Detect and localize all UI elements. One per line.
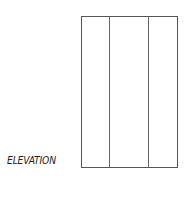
panel-divider-right xyxy=(148,17,149,167)
elevation-panel xyxy=(81,16,178,168)
elevation-label: ELEVATION xyxy=(7,155,56,166)
panel-divider-left xyxy=(109,17,110,167)
